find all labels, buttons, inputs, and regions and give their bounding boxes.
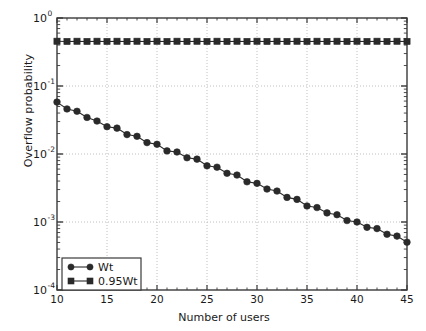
marker-square [304, 38, 310, 44]
marker-square [374, 38, 380, 44]
marker-circle [304, 203, 311, 210]
marker-circle [334, 211, 341, 218]
marker-square [224, 38, 230, 44]
marker-square [154, 38, 160, 44]
y-axis-label: Overflow probability [22, 21, 35, 201]
x-tick-label: 15 [100, 293, 113, 305]
marker-circle [354, 219, 361, 226]
marker-circle [244, 179, 251, 186]
y-tick-label-exponent: -1 [48, 77, 56, 86]
x-axis-label-text: Number of users [178, 311, 270, 324]
marker-square [274, 38, 280, 44]
marker-square [54, 38, 60, 44]
legend-marker-square [68, 278, 74, 284]
marker-circle [404, 239, 411, 246]
marker-square [94, 38, 100, 44]
marker-circle [364, 224, 371, 231]
x-tick-label: 45 [400, 293, 413, 305]
y-tick-label-base: 10 [33, 216, 47, 229]
marker-square [384, 38, 390, 44]
marker-circle [154, 141, 161, 148]
marker-square [214, 38, 220, 44]
marker-circle [204, 163, 211, 170]
x-tick-label: 30 [250, 293, 263, 305]
overflow-probability-log-plot: 101520253035404510010-110-210-310-4 Wt0.… [0, 0, 426, 331]
marker-circle [74, 108, 81, 115]
marker-square [144, 38, 150, 44]
marker-square [404, 38, 410, 44]
marker-circle [284, 194, 291, 201]
x-tick-label: 40 [350, 293, 363, 305]
legend-label-1: Wt [98, 261, 114, 274]
marker-circle [384, 231, 391, 238]
marker-circle [394, 233, 401, 240]
legend-marker-circle [68, 264, 74, 270]
marker-square [364, 38, 370, 44]
marker-circle [184, 154, 191, 161]
chart-figure: 101520253035404510010-110-210-310-4 Wt0.… [0, 0, 426, 331]
marker-circle [314, 204, 321, 211]
marker-circle [224, 170, 231, 177]
marker-square [84, 38, 90, 44]
marker-square [324, 38, 330, 44]
marker-circle [164, 148, 171, 155]
legend-marker-square [87, 278, 93, 284]
marker-circle [194, 156, 201, 163]
marker-circle [174, 149, 181, 156]
marker-circle [374, 225, 381, 232]
marker-square [64, 38, 70, 44]
marker-square [254, 38, 260, 44]
marker-circle [344, 217, 351, 224]
marker-square [284, 38, 290, 44]
y-tick-label-base: 10 [33, 148, 47, 161]
legend-label-2: 0.95Wt [98, 275, 138, 288]
marker-square [124, 38, 130, 44]
y-tick-label-base: 10 [33, 12, 47, 25]
marker-square [244, 38, 250, 44]
legend-box: Wt0.95Wt [62, 258, 141, 290]
marker-square [294, 38, 300, 44]
gridlines-layer [57, 18, 407, 290]
marker-square [344, 38, 350, 44]
y-tick-label-exponent: 0 [48, 9, 53, 18]
y-tick-label-exponent: -4 [48, 281, 56, 290]
marker-square [334, 38, 340, 44]
marker-square [394, 38, 400, 44]
x-tick-label: 20 [150, 293, 163, 305]
y-tick-label-exponent: -2 [48, 145, 56, 154]
marker-circle [84, 114, 91, 121]
marker-circle [54, 99, 61, 106]
marker-circle [124, 131, 131, 138]
x-tick-label: 35 [300, 293, 313, 305]
x-axis-label: Number of users [0, 311, 426, 324]
marker-square [174, 38, 180, 44]
marker-circle [104, 123, 111, 130]
marker-circle [294, 196, 301, 203]
marker-square [164, 38, 170, 44]
marker-square [194, 38, 200, 44]
x-tick-label: 25 [200, 293, 213, 305]
marker-circle [254, 180, 261, 187]
x-tick-label: 10 [50, 293, 63, 305]
marker-circle [264, 186, 271, 193]
marker-square [114, 38, 120, 44]
marker-circle [214, 164, 221, 171]
marker-circle [114, 125, 121, 132]
marker-square [314, 38, 320, 44]
y-tick-label-exponent: -3 [48, 213, 56, 222]
marker-circle [94, 118, 101, 125]
marker-square [354, 38, 360, 44]
marker-square [234, 38, 240, 44]
y-tick-label-base: 10 [33, 80, 47, 93]
marker-square [104, 38, 110, 44]
marker-circle [144, 139, 151, 146]
marker-square [204, 38, 210, 44]
marker-circle [134, 133, 141, 140]
marker-circle [234, 172, 241, 179]
marker-circle [324, 210, 331, 217]
marker-square [264, 38, 270, 44]
marker-square [134, 38, 140, 44]
marker-square [184, 38, 190, 44]
y-tick-label-base: 10 [33, 284, 47, 297]
marker-circle [64, 106, 71, 113]
